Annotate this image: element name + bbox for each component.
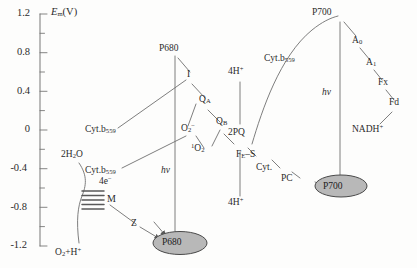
cytb559-lower-label: Cyt.b559 [85,166,116,176]
protons-upper-label: 4H+ [228,66,243,76]
manganese-cluster-bars [82,191,104,209]
psii-photon-label: hv [161,166,170,176]
cytochrome-label: Cyt. [256,163,272,173]
psi-photon-label: hv [322,88,331,98]
I-to-cytb559-upper [118,80,186,128]
plastoquinone-label: 2PQ [228,128,245,138]
y-axis-label: Em(V) [51,7,77,18]
fes-to-cyt [272,160,280,168]
oxygen-products-label: O2+H+ [55,247,81,258]
QA-label: QA [199,95,211,105]
p680-oval-label: P680 [162,237,182,247]
p700-to-A0 [344,22,356,36]
y-tick-neg0.8: -0.8 [1,202,27,213]
y-tick-1.2: 1.2 [4,8,30,19]
A1-label: A1 [366,58,376,68]
Fd-label: Fd [389,98,399,108]
pheophytin-I-label: I [187,70,190,80]
nadh-label: NADH+ [352,124,383,134]
iron-sulfur-label: FE–S [236,150,255,160]
p700-top-label: P700 [312,8,332,18]
protons-lower-label: 4H+ [228,197,243,207]
y-tick-0: 0 [4,124,30,135]
p680-top-label: P680 [159,44,179,54]
electrons-label: 4e− [99,176,112,186]
y-tick-0.4: 0.4 [4,86,30,97]
plastocyanin-label: PC [281,174,293,184]
singlet-oxygen-to-QB [212,130,220,146]
y-tick-neg0.4: -0.4 [1,163,27,174]
singlet-oxygen-label: 1O2 [191,143,204,154]
cytb-intersystem-label: Cyt.b559 [264,54,295,64]
QB-label: QB [216,117,227,127]
tyrosine-z-label: Z [131,219,137,229]
y-tick-neg1.2: -1.2 [1,240,27,251]
cytb559-upper-label: Cyt.b559 [85,125,116,135]
A0-label: A0 [352,36,362,46]
water-label: 2H2O [61,150,83,160]
cyt-to-pc [292,172,300,178]
superoxide-label: O2− [181,123,195,134]
y-axis-label-unit: (V) [63,6,78,17]
p700-oval-label: P700 [323,181,343,191]
z-scheme-diagram: 1.2 0.8 0.4 0 -0.4 -0.8 -1.2 Em(V) 2H2O … [0,0,417,268]
superoxide-to-cytb559-lower [122,136,186,168]
manganese-cluster-label: M [107,194,116,204]
pq-to-p700-curve [252,16,338,144]
y-tick-0.8: 0.8 [4,47,30,58]
Fx-label: Fx [378,78,388,88]
